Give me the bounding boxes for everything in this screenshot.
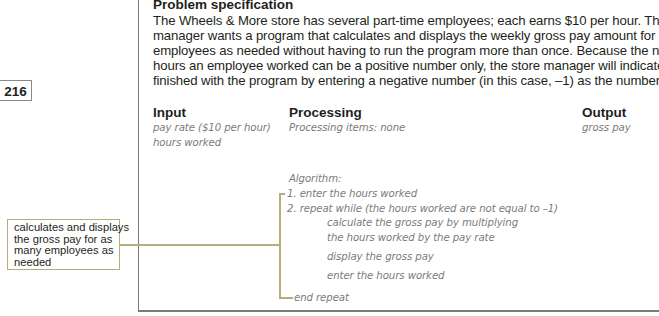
frame-bottom-border <box>138 310 659 312</box>
algorithm-label: Algorithm: <box>289 171 341 186</box>
spec-line: finished with the program by entering a … <box>153 73 658 88</box>
input-item: pay rate ($10 per hour) <box>153 120 271 135</box>
algorithm-step: end repeat <box>294 290 349 305</box>
algorithm-bracket-bottom <box>279 297 293 299</box>
spec-line: The Wheels & More store has several part… <box>153 13 658 28</box>
algorithm-step: 1. enter the hours worked <box>287 186 417 201</box>
spec-line: hours an employee worked can be a positi… <box>153 58 658 73</box>
algorithm-step: calculate the gross pay by multiplying <box>327 215 518 230</box>
algorithm-bracket-top <box>279 193 285 195</box>
algorithm-step: the hours worked by the pay rate <box>327 230 495 245</box>
output-item: gross pay <box>582 120 631 135</box>
input-heading: Input <box>153 106 186 120</box>
problem-specification-text: The Wheels & More store has several part… <box>153 13 658 88</box>
callout-line: needed <box>14 257 119 269</box>
page-number: 216 <box>0 80 32 101</box>
spec-line: manager wants a program that calculates … <box>153 28 658 43</box>
algorithm-step: 2. repeat while (the hours worked are no… <box>287 201 558 216</box>
input-item: hours worked <box>153 135 221 150</box>
processing-heading: Processing <box>289 106 362 120</box>
callout-box: calculates and displays the gross pay fo… <box>7 219 120 270</box>
callout-line: calculates and displays <box>14 222 119 234</box>
algorithm-bracket <box>279 193 281 298</box>
algorithm-step: enter the hours worked <box>327 268 444 283</box>
output-heading: Output <box>582 106 626 120</box>
frame-left-border <box>138 0 139 311</box>
algorithm-step: display the gross pay <box>327 249 434 264</box>
problem-specification-title: Problem specification <box>153 0 293 12</box>
callout-connector-line <box>120 244 280 246</box>
spec-line: employees as needed without having to ru… <box>153 43 658 58</box>
processing-items: Processing items: none <box>289 120 405 135</box>
